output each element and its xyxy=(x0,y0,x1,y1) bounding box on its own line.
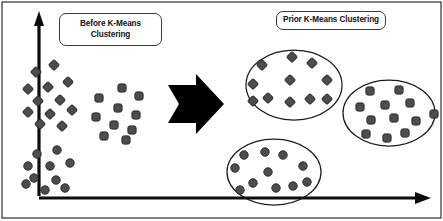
marker-diamond xyxy=(285,75,296,86)
marker-diamond xyxy=(43,82,54,93)
marker-diamond xyxy=(23,107,34,118)
marker-circle xyxy=(30,174,38,182)
marker-circle xyxy=(61,184,69,192)
marker-circle xyxy=(33,150,41,158)
marker-rounded-square xyxy=(132,111,140,119)
figure-canvas: Before K-Means Clustering Prior K-Means … xyxy=(0,0,443,221)
marker-rounded-square xyxy=(356,103,364,111)
marker-diamond xyxy=(33,96,44,107)
marker-rounded-square xyxy=(95,94,103,102)
label-prior-line1: Prior K-Means Clustering xyxy=(283,15,379,25)
marker-rounded-square xyxy=(406,99,414,107)
marker-rounded-square xyxy=(135,92,143,100)
marker-rounded-square xyxy=(381,101,389,109)
marker-rounded-square xyxy=(383,134,391,142)
marker-diamond xyxy=(67,105,78,116)
marker-diamond xyxy=(307,58,318,69)
marker-rounded-square xyxy=(100,132,108,140)
label-prior-kmeans: Prior K-Means Clustering xyxy=(276,11,386,30)
label-before-line1: Before K-Means xyxy=(80,19,141,29)
marker-rounded-square xyxy=(401,129,409,137)
marker-circle xyxy=(66,159,74,167)
marker-diamond xyxy=(35,119,46,130)
marker-circle xyxy=(249,179,257,187)
marker-circle xyxy=(46,162,54,170)
label-before-kmeans: Before K-Means Clustering xyxy=(59,13,162,46)
marker-diamond xyxy=(263,93,274,104)
marker-rounded-square xyxy=(114,104,122,112)
marker-circle xyxy=(240,151,248,159)
marker-circle xyxy=(299,162,307,170)
marker-rounded-square xyxy=(430,110,438,118)
marker-diamond xyxy=(49,60,60,71)
marker-rounded-square xyxy=(128,126,136,134)
marker-circle xyxy=(22,180,30,188)
cluster-hull-cluster-circles xyxy=(227,139,321,205)
marker-circle xyxy=(264,168,272,176)
x-axis-arrowhead xyxy=(415,192,431,204)
marker-diamond xyxy=(248,79,259,90)
marker-rounded-square xyxy=(110,121,118,129)
marker-circle xyxy=(303,178,311,186)
marker-diamond xyxy=(287,52,298,63)
marker-rounded-square xyxy=(395,86,403,94)
marker-rounded-square xyxy=(366,87,374,95)
marker-rounded-square xyxy=(367,116,375,124)
cluster-hulls xyxy=(227,50,435,205)
marker-rounded-square xyxy=(122,136,130,144)
marker-rounded-square xyxy=(92,113,100,121)
marker-circle xyxy=(41,186,49,194)
marker-diamond xyxy=(322,94,333,105)
marker-diamond xyxy=(23,84,34,95)
marker-rounded-square xyxy=(362,130,370,138)
marker-rounded-square xyxy=(390,114,398,122)
marker-circle xyxy=(236,186,244,194)
marker-diamond xyxy=(63,77,74,88)
marker-rounded-square xyxy=(412,117,420,125)
marker-circle xyxy=(289,182,297,190)
marker-circle xyxy=(53,146,61,154)
label-before-line2: Clustering xyxy=(80,30,141,40)
right-arrow-icon xyxy=(168,74,224,134)
marker-circle xyxy=(52,176,60,184)
y-axis-arrowhead xyxy=(34,11,44,26)
transition-arrow-group xyxy=(168,74,224,134)
marker-diamond xyxy=(55,95,66,106)
marker-rounded-square xyxy=(118,84,126,92)
marker-diamond xyxy=(45,109,56,120)
marker-diamond xyxy=(57,121,68,132)
marker-diamond xyxy=(322,75,333,86)
data-markers xyxy=(22,52,438,195)
marker-circle xyxy=(272,184,280,192)
marker-circle xyxy=(279,151,287,159)
marker-circle xyxy=(231,164,239,172)
marker-diamond xyxy=(285,97,296,108)
marker-circle xyxy=(261,148,269,156)
marker-diamond xyxy=(305,94,316,105)
marker-circle xyxy=(24,162,32,170)
